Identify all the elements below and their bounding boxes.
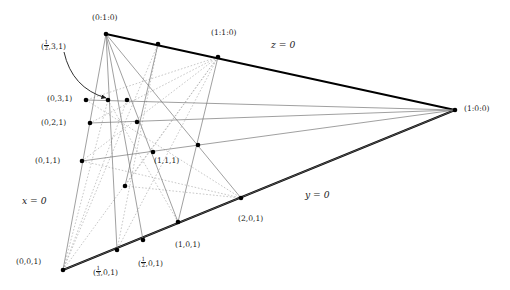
dotted-line-group xyxy=(63,44,241,270)
pt-top-a xyxy=(156,42,161,47)
label-x-eq-0: x = 0 xyxy=(22,196,47,205)
label-half-3-1-denominator: 2 xyxy=(44,45,49,52)
pt-h3-a xyxy=(106,98,111,103)
label-0-1-0: (0:1:0) xyxy=(92,14,118,22)
pt-0-2-1 xyxy=(88,121,93,126)
label-0-0-1: (0,0,1) xyxy=(16,258,41,266)
pt-2-0-1 xyxy=(239,196,244,201)
pt-1-1-0 xyxy=(216,55,221,60)
label-half-0-1: (12,0,1) xyxy=(138,257,163,269)
label-2-0-1: (2,0,1) xyxy=(238,215,263,223)
label-0-1-1: (0,1,1) xyxy=(35,157,60,165)
label-third-0-1-suffix: ,0,1) xyxy=(101,268,118,277)
line-apex-3 xyxy=(106,34,178,222)
pt-0-3-1 xyxy=(84,98,89,103)
line-v-110-101 xyxy=(178,57,218,222)
pt-1-0-0 xyxy=(453,108,458,113)
line-h3 xyxy=(86,100,455,110)
label-third-0-1-denominator: 3 xyxy=(96,271,101,278)
label-third-0-1: (13,0,1) xyxy=(93,266,118,278)
line-right-down xyxy=(63,110,455,270)
pt-third xyxy=(115,248,120,253)
line-left-edge xyxy=(63,34,106,270)
pt-0-1-0 xyxy=(104,32,109,37)
label-z-eq-0: z = 0 xyxy=(271,40,295,49)
pt-center xyxy=(123,184,128,189)
pt-0-0-1 xyxy=(61,268,66,273)
pt-1-0-1 xyxy=(176,220,181,225)
label-half-0-1-suffix: ,0,1) xyxy=(146,259,163,268)
dot-14 xyxy=(125,186,241,198)
label-half-3-1: (12,3,1) xyxy=(41,40,66,52)
label-half-0-1-denominator: 2 xyxy=(141,262,146,269)
label-1-1-0: (1:1:0) xyxy=(211,29,237,37)
diagram-svg xyxy=(0,0,510,290)
label-half-3-1-fraction: 12 xyxy=(44,40,49,52)
pt-1-1-1 xyxy=(151,150,156,155)
dot-5 xyxy=(86,57,218,100)
solid-line-group xyxy=(63,34,455,270)
dot-4 xyxy=(63,100,108,270)
pointer-arrow-half-3-1 xyxy=(64,52,106,98)
label-0-3-1: (0,3,1) xyxy=(47,95,72,103)
label-half-3-1-suffix: ,3,1) xyxy=(49,42,66,51)
label-1-1-1: (1,1,1) xyxy=(154,157,179,165)
dot-10 xyxy=(117,44,158,250)
dot-3 xyxy=(63,100,127,270)
label-0-2-1: (0,2,1) xyxy=(41,119,66,127)
annotation-arrow-group xyxy=(64,52,106,98)
figure-canvas: (0:1:0)(1:1:0)z = 0(1:0:0)(0,3,1)(0,2,1)… xyxy=(0,0,510,290)
label-half-0-1-fraction: 12 xyxy=(141,257,146,269)
label-1-0-0: (1:0:0) xyxy=(464,105,490,113)
pt-h2-a xyxy=(135,120,140,125)
pt-0-1-1 xyxy=(80,159,85,164)
label-third-0-1-fraction: 13 xyxy=(96,266,101,278)
label-1-0-1: (1,0,1) xyxy=(175,241,200,249)
pt-h3-b xyxy=(125,98,130,103)
pt-h1-a xyxy=(196,143,201,148)
dot-9 xyxy=(117,57,218,250)
pt-half xyxy=(141,238,146,243)
label-y-eq-0: y = 0 xyxy=(305,190,330,199)
